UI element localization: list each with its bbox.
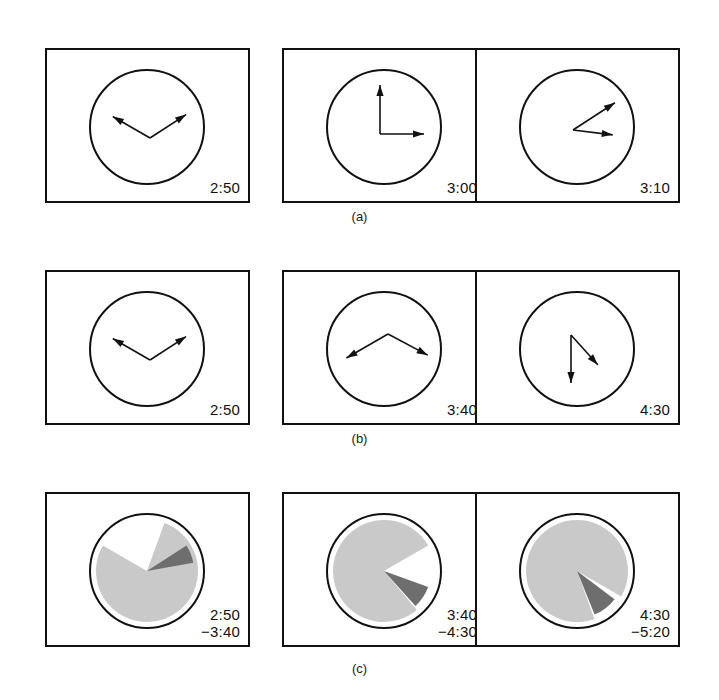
clock-panel: 3:40−4:30 — [282, 492, 487, 647]
clock-face-circle — [327, 70, 441, 184]
time-label: 3:00 — [447, 180, 477, 197]
time-label: 2:50 — [210, 180, 240, 197]
clock-angle-figure: 2:503:003:10(a)2:503:404:30(b)2:50−3:403… — [0, 0, 719, 700]
time-label: 4:30 — [640, 402, 670, 419]
clock-face-circle — [90, 70, 204, 184]
time-label-line1: 3:40 — [447, 606, 477, 623]
time-label: 2:50 — [210, 402, 240, 419]
time-label-line1: 3:40 — [447, 401, 477, 418]
time-label: 3:10 — [640, 180, 670, 197]
clock-panel: 2:50 — [45, 270, 250, 425]
row-caption: (c) — [0, 661, 719, 676]
clock-panel: 4:30−5:20 — [475, 492, 680, 647]
time-label-line1: 4:30 — [640, 401, 670, 418]
clock-panel: 3:40 — [282, 270, 487, 425]
clock-panel: 2:50−3:40 — [45, 492, 250, 647]
time-label-line1: 3:10 — [640, 179, 670, 196]
time-label-line1: 2:50 — [210, 606, 240, 623]
time-label-line2: −4:30 — [438, 624, 477, 641]
clock-panel: 3:10 — [475, 48, 680, 203]
time-label-line2: −3:40 — [201, 624, 240, 641]
clock-face-circle — [327, 292, 441, 406]
clock-panel: 4:30 — [475, 270, 680, 425]
time-label: 2:50−3:40 — [201, 607, 240, 641]
clock-panel: 3:00 — [282, 48, 487, 203]
clock-panel: 2:50 — [45, 48, 250, 203]
time-label-line2: −5:20 — [631, 624, 670, 641]
time-label-line1: 2:50 — [210, 401, 240, 418]
time-label-line1: 3:00 — [447, 179, 477, 196]
time-label: 3:40−4:30 — [438, 607, 477, 641]
time-label: 4:30−5:20 — [631, 607, 670, 641]
time-label-line1: 4:30 — [640, 606, 670, 623]
time-label-line1: 2:50 — [210, 179, 240, 196]
time-label: 3:40 — [447, 402, 477, 419]
row-caption: (a) — [0, 209, 719, 224]
clock-face-circle — [520, 292, 634, 406]
row-caption: (b) — [0, 431, 719, 446]
clock-face-circle — [90, 292, 204, 406]
